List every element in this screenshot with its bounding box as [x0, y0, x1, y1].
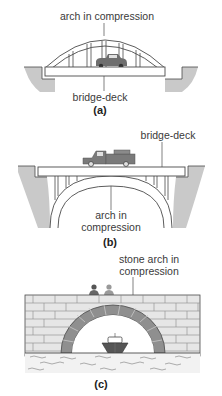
truck-icon: [83, 150, 135, 167]
bridge-deck-a: [45, 67, 165, 76]
arch-bridges-diagram: arch in compression: [0, 0, 222, 396]
label-stone-arch-in: stone arch in: [119, 253, 179, 265]
label-arch-in-b: arch in: [95, 209, 127, 221]
bridge-deck-b: [38, 167, 185, 176]
label-bridge-deck-b: bridge-deck: [141, 129, 197, 141]
water: [25, 353, 200, 373]
label-compression-c: compression: [119, 265, 179, 277]
panel-a-arch-above-deck: arch in compression: [24, 10, 198, 116]
caption-c: (c): [94, 378, 108, 390]
label-compression-b: compression: [81, 221, 141, 233]
caption-b: (b): [103, 236, 117, 248]
people-icon: [89, 284, 114, 296]
label-bridge-deck-a: bridge-deck: [73, 91, 129, 103]
car-icon: [96, 54, 127, 68]
panel-c-stone-arch: stone arch in compression: [25, 253, 200, 390]
ground-right-a: [165, 67, 198, 92]
label-arch-in-compression-a: arch in compression: [60, 10, 154, 22]
caption-a: (a): [93, 104, 107, 116]
panel-b-arch-below-deck: bridge-deck: [18, 129, 205, 248]
